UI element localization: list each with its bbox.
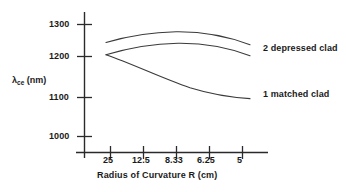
y-tick-label-1000: 1000 <box>49 131 69 141</box>
chart-figure: 1300 1200 1100 1000 25 12.5 8.33 6.25 5 … <box>0 0 346 192</box>
series-line-1-matched-clad <box>106 55 250 99</box>
x-tick-label-5: 5 <box>237 155 242 165</box>
x-axis-title: Radius of Curvature R (cm) <box>97 170 217 180</box>
y-tick-label-1100: 1100 <box>49 92 69 102</box>
y-tick-label-1300: 1300 <box>49 19 69 29</box>
series-label-1-matched-clad: 1 matched clad <box>263 89 329 99</box>
series-label-2-depressed-clad: 2 depressed clad <box>263 43 338 53</box>
x-tick-label-6-25: 6.25 <box>197 155 215 165</box>
x-tick-label-8-33: 8.33 <box>165 155 183 165</box>
x-tick-label-25: 25 <box>103 155 113 165</box>
y-tick-label-1200: 1200 <box>49 51 69 61</box>
x-tick-label-12-5: 12.5 <box>132 155 150 165</box>
y-axis-title: λce (nm) <box>12 75 46 86</box>
series-line-2-depressed-clad-lower <box>106 43 250 56</box>
y-axis-title-unit: (nm) <box>24 75 46 85</box>
